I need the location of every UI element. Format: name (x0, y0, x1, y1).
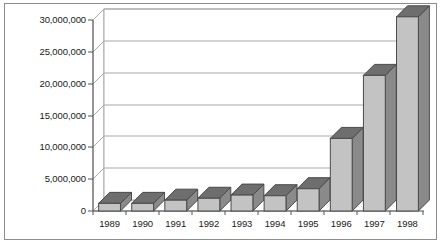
bar-1997 (363, 64, 396, 211)
y-axis-tick-label-slot: 30,000,000 (4, 14, 86, 26)
y-axis-tick-label-slot: 5,000,000 (4, 173, 86, 185)
y-axis-tick-label: 5,000,000 (45, 173, 86, 184)
y-axis-tick-label: 15,000,000 (39, 110, 86, 121)
bar-front-face (264, 196, 286, 211)
chart-plot-area: 05,000,00010,000,00015,000,00020,000,000… (0, 0, 441, 244)
x-axis-tick-label: 1991 (159, 218, 192, 229)
x-axis-tick-label: 1997 (358, 218, 391, 229)
bar-side-face (385, 64, 396, 211)
y-axis-tick-label-slot: 10,000,000 (4, 141, 86, 153)
x-axis-tick-label: 1992 (192, 218, 225, 229)
bar-front-face (231, 195, 253, 211)
bar-side-face (418, 6, 429, 211)
bar-1998 (397, 6, 430, 211)
x-axis-tick-label: 1998 (391, 218, 424, 229)
bar-1996 (330, 127, 363, 211)
x-axis-tick-label: 1989 (93, 218, 126, 229)
y-axis-ticks (88, 20, 93, 211)
bar-front-face (165, 200, 187, 211)
bar-front-face (397, 17, 419, 211)
y-axis-tick-label-slot: 20,000,000 (4, 78, 86, 90)
y-axis-tick-label: 30,000,000 (39, 14, 86, 25)
bar-front-face (297, 189, 319, 211)
x-axis-tick-label: 1994 (259, 218, 292, 229)
x-axis-tick-label: 1995 (292, 218, 325, 229)
bar-front-face (198, 198, 220, 211)
y-axis-tick-label: 20,000,000 (39, 78, 86, 89)
y-axis-tick-label-slot: 15,000,000 (4, 110, 86, 122)
y-axis-tick-label-slot: 0 (4, 205, 86, 217)
x-axis-tick-label: 1990 (126, 218, 159, 229)
y-axis-tick-label: 25,000,000 (39, 46, 86, 57)
x-axis-tick-label: 1993 (225, 218, 258, 229)
y-axis-tick-label-slot: 25,000,000 (4, 46, 86, 58)
bar-front-face (99, 203, 121, 211)
bar-side-face (352, 127, 363, 211)
x-axis-ticks (93, 211, 423, 215)
y-axis-tick-label: 10,000,000 (39, 141, 86, 152)
y-axis-tick-label: 0 (81, 205, 86, 216)
bar-front-face (363, 75, 385, 211)
x-axis-tick-label: 1996 (325, 218, 358, 229)
bar-front-face (330, 138, 352, 211)
chart-screenshot: 05,000,00010,000,00015,000,00020,000,000… (0, 0, 441, 244)
bar-front-face (132, 203, 154, 211)
